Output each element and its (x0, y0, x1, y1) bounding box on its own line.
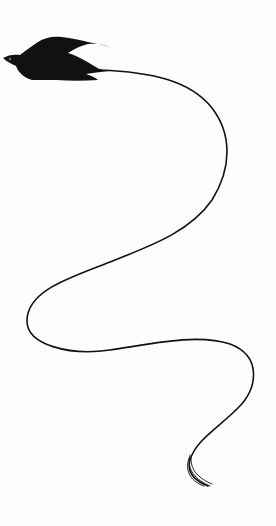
trailing-line (27, 70, 254, 486)
illustration-canvas (0, 0, 276, 526)
bird-drawing (0, 0, 276, 526)
bird-icon (3, 37, 110, 81)
